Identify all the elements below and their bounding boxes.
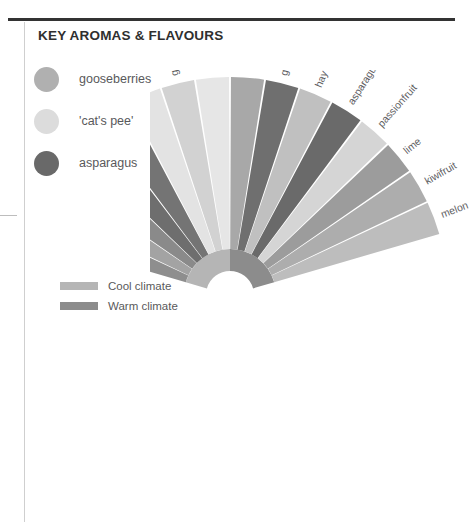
legend-item-label: gooseberries: [79, 72, 151, 86]
page-root: KEY AROMAS & FLAVOURS gooseberries 'cat'…: [0, 0, 474, 525]
legend-swatch-bar-icon: [60, 302, 98, 310]
legend-swatch-circle-icon: [34, 109, 59, 134]
legend-item-label: 'cat's pee': [79, 114, 133, 128]
page-title: KEY AROMAS & FLAVOURS: [38, 28, 223, 43]
fan-segment-label: kiwifruit: [423, 160, 459, 187]
fan-segment-label: melon: [439, 199, 470, 219]
top-divider-rule: [8, 18, 455, 21]
fan-segment-label: grass: [278, 70, 295, 77]
left-margin-tick: [0, 215, 17, 216]
fan-segment-label: asparagus: [346, 70, 381, 107]
fan-chart-svg: flintstonegreen applenettleselderflowerl…: [150, 70, 474, 525]
fan-segment-label: hay: [313, 70, 330, 89]
fan-segment-label: passionfruit: [375, 82, 419, 129]
legend-swatch-bar-icon: [60, 282, 98, 290]
fan-segment-label: gooseberry: [157, 70, 180, 77]
legend-item-label: asparagus: [79, 156, 137, 170]
aroma-fan-chart: flintstonegreen applenettleselderflowerl…: [150, 70, 474, 525]
legend-swatch-circle-icon: [34, 151, 59, 176]
fan-segment-label: lime: [401, 135, 423, 156]
legend-swatch-circle-icon: [34, 67, 59, 92]
left-margin-rule: [24, 22, 25, 522]
